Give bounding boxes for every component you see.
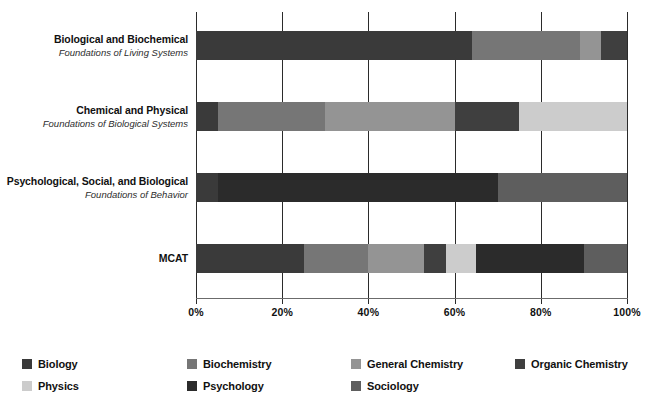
legend-label: Biochemistry [203, 358, 272, 370]
legend-label: Sociology [367, 380, 419, 392]
x-tick-label: 100% [613, 306, 641, 318]
bar-segment-organic-chemistry [424, 244, 446, 273]
bar-segment-organic-chemistry [601, 31, 627, 60]
x-tick-label: 40% [358, 306, 380, 318]
x-tick-mark [196, 299, 197, 304]
legend-label: General Chemistry [367, 358, 463, 370]
category-label: Chemical and PhysicalFoundations of Biol… [6, 104, 188, 130]
category-title: Psychological, Social, and Biological [6, 175, 188, 188]
gridline-100 [627, 12, 628, 299]
bar-segment-sociology [498, 173, 627, 202]
x-tick-label: 20% [271, 306, 293, 318]
legend-swatch-icon [351, 381, 361, 391]
bar-segment-general-chemistry [368, 244, 424, 273]
category-label: MCAT [6, 252, 188, 265]
legend-swatch-icon [187, 359, 197, 369]
legend-item-biochemistry[interactable]: Biochemistry [187, 358, 272, 370]
x-tick-mark [541, 299, 542, 304]
plot-area [196, 12, 627, 299]
bar-segment-biochemistry [304, 244, 369, 273]
bar-segment-biology [196, 173, 218, 202]
bar-segment-biology [196, 244, 304, 273]
category-label: Biological and BiochemicalFoundations of… [6, 33, 188, 59]
category-title: Biological and Biochemical [6, 33, 188, 46]
bar-segment-biochemistry [218, 102, 326, 131]
bar-row [196, 173, 627, 202]
legend-label: Organic Chemistry [531, 358, 628, 370]
bar-row [196, 31, 627, 60]
legend-item-physics[interactable]: Physics [22, 380, 79, 392]
bar-segment-organic-chemistry [455, 102, 520, 131]
legend-swatch-icon [515, 359, 525, 369]
x-tick-mark [368, 299, 369, 304]
legend-swatch-icon [22, 359, 32, 369]
category-subtitle: Foundations of Biological Systems [6, 117, 188, 130]
legend-item-organic-chemistry[interactable]: Organic Chemistry [515, 358, 628, 370]
bar-segment-physics [519, 102, 627, 131]
stacked-bar-chart: Biological and BiochemicalFoundations of… [0, 0, 650, 414]
x-tick-label: 80% [530, 306, 552, 318]
legend-item-general-chemistry[interactable]: General Chemistry [351, 358, 463, 370]
legend-item-biology[interactable]: Biology [22, 358, 78, 370]
x-tick-mark [627, 299, 628, 304]
bar-segment-physics [446, 244, 476, 273]
legend-item-psychology[interactable]: Psychology [187, 380, 264, 392]
legend-label: Physics [38, 380, 79, 392]
legend-label: Biology [38, 358, 78, 370]
bar-row [196, 244, 627, 273]
bar-row [196, 102, 627, 131]
x-tick-mark [282, 299, 283, 304]
category-title: Chemical and Physical [6, 104, 188, 117]
legend-swatch-icon [187, 381, 197, 391]
bar-segment-general-chemistry [325, 102, 454, 131]
x-tick-mark [455, 299, 456, 304]
legend-swatch-icon [351, 359, 361, 369]
bar-segment-psychology [218, 173, 498, 202]
category-label: Psychological, Social, and BiologicalFou… [6, 175, 188, 201]
bar-segment-biology [196, 102, 218, 131]
bar-segment-general-chemistry [580, 31, 602, 60]
category-subtitle: Foundations of Behavior [6, 188, 188, 201]
bar-segment-biology [196, 31, 472, 60]
x-tick-label: 60% [444, 306, 466, 318]
bar-segment-psychology [476, 244, 584, 273]
chart-legend: BiologyBiochemistryGeneral ChemistryOrga… [0, 346, 650, 406]
legend-label: Psychology [203, 380, 264, 392]
x-axis-line [196, 298, 628, 299]
legend-swatch-icon [22, 381, 32, 391]
category-title: MCAT [6, 252, 188, 265]
bar-segment-sociology [584, 244, 627, 273]
legend-item-sociology[interactable]: Sociology [351, 380, 419, 392]
x-tick-label: 0% [188, 306, 204, 318]
bar-segment-biochemistry [472, 31, 580, 60]
category-subtitle: Foundations of Living Systems [6, 46, 188, 59]
